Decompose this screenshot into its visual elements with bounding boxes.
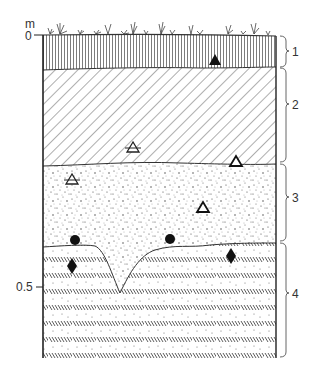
depth-tick-05-label: 0.5 (16, 280, 33, 294)
soil-profile-diagram: m 0 0.5 1 2 3 4 (0, 0, 315, 379)
layer-1-fill (43, 34, 276, 70)
layer-2-label: 2 (292, 98, 299, 112)
filled-circle-icon (70, 235, 80, 245)
brace-layer-2 (280, 68, 289, 162)
layer-3-label: 3 (292, 191, 299, 205)
brace-layer-3 (280, 164, 289, 241)
grass-vegetation-icon (48, 22, 270, 35)
layer-braces (280, 36, 289, 357)
filled-circle-icon (165, 234, 175, 244)
depth-tick-0-label: 0 (25, 29, 32, 43)
brace-layer-1 (280, 36, 289, 67)
layer-4-fill (43, 243, 276, 358)
layer-1-label: 1 (292, 45, 299, 59)
depth-axis: m 0 0.5 (16, 17, 43, 294)
layer-4-label: 4 (292, 287, 299, 301)
brace-layer-4 (280, 243, 289, 357)
layer-2-fill (43, 67, 276, 166)
